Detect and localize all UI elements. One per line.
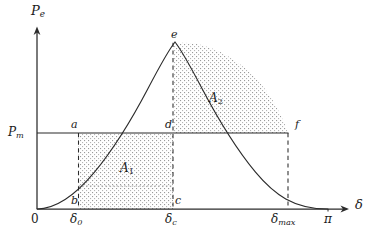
point-label-c-text: c: [175, 194, 181, 207]
x-tick-label-deltamax-subscript: max: [278, 217, 295, 227]
x-tick-label-origin: 0: [31, 213, 39, 225]
y-tick-label-pm-subscript: m: [16, 130, 24, 140]
y-tick-label-pm-main: P: [8, 125, 16, 139]
area-label-a1-main: A: [120, 161, 129, 175]
area-label-a1-subscript: 1: [129, 166, 134, 176]
x-tick-label-delta0: δ0: [70, 213, 82, 226]
y-axis-label: Pe: [31, 4, 45, 19]
y-axis-label-main: P: [31, 3, 40, 18]
point-label-b: b: [71, 195, 78, 206]
point-label-d: d: [165, 119, 172, 130]
x-tick-label-deltac-subscript: c: [172, 217, 177, 227]
power-angle-curve-figure: Pe δ Pm 0 δ0 δc δmax π a b c d e f: [0, 0, 376, 236]
x-axis-label-main: δ: [355, 197, 363, 212]
point-label-b-text: b: [71, 194, 78, 207]
y-axis-label-subscript: e: [40, 9, 45, 19]
point-label-f-text: f: [295, 118, 299, 131]
area-a2-shading: [173, 43, 288, 133]
area-label-a2-subscript: 2: [218, 96, 223, 106]
point-label-a-text: a: [71, 118, 78, 131]
x-tick-label-delta0-subscript: 0: [77, 217, 82, 227]
x-tick-label-pi: π: [324, 213, 332, 225]
point-label-e-text: e: [171, 28, 178, 41]
point-label-a: a: [71, 119, 78, 130]
point-label-c: c: [175, 195, 181, 206]
x-axis-label: δ: [355, 198, 363, 211]
plot-canvas: [0, 0, 376, 236]
area-label-a2-main: A: [209, 91, 218, 105]
x-tick-label-pi-main: π: [324, 212, 332, 226]
area-label-a2: A2: [209, 92, 223, 105]
x-tick-label-origin-main: 0: [31, 212, 39, 226]
point-label-f: f: [295, 119, 299, 130]
x-tick-label-deltamax: δmax: [271, 213, 295, 226]
x-tick-label-deltac: δc: [165, 213, 177, 226]
point-label-e: e: [171, 29, 178, 40]
point-label-d-text: d: [165, 118, 172, 131]
y-tick-label-pm: Pm: [8, 126, 24, 139]
area-label-a1: A1: [120, 162, 134, 175]
